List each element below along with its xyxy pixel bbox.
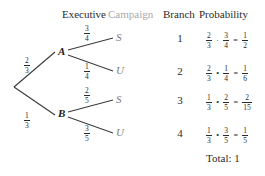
branch-number-2: 2 [172,65,188,77]
edge-b-to-s [68,100,113,112]
multiply-symbol: • [214,132,222,140]
edge-label-a-to-u: 1 4 [84,63,90,80]
branch-number-1: 1 [172,32,188,44]
probability-row-3: 1 3 • 2 5 = 2 15 [206,94,252,111]
prob-3-result: 2 15 [242,94,252,111]
edge-label-root-to-a: 2 3 [24,57,30,74]
tree-edges-graphic [0,0,265,176]
probability-row-2: 2 3 • 1 4 = 1 6 [206,65,248,82]
header-campaign: Campaign [108,8,153,20]
header-executive: Executive [62,8,106,20]
probability-tree-diagram: Executive Campaign Branch Probability 2 … [0,0,265,176]
leaf-label-1-s: S [116,31,122,43]
edge-root-to-b [14,87,55,115]
edge-b-to-u [68,117,113,133]
prob-1-factor-2: 3 4 [223,32,229,49]
edge-root-to-a [14,52,55,87]
header-branch: Branch [163,8,195,20]
equals-symbol: = [231,99,241,107]
total-label: Total: 1 [206,152,240,164]
prob-3-factor-1: 1 3 [206,94,212,111]
equals-symbol: = [231,132,241,140]
prob-3-factor-2: 2 5 [223,94,229,111]
prob-2-factor-2: 1 4 [223,65,229,82]
edge-a-to-s [68,38,113,50]
multiply-symbol: • [214,99,222,107]
node-label-b: B [58,107,65,119]
prob-4-result: 1 5 [242,127,248,144]
multiply-symbol: · [214,37,222,45]
fraction-three-fifths: 3 5 [84,125,90,142]
prob-1-factor-1: 2 3 [206,32,212,49]
prob-4-factor-1: 1 3 [206,127,212,144]
fraction-one-third: 1 3 [24,112,30,129]
fraction-two-thirds: 2 3 [24,57,30,74]
prob-1-result: 1 2 [242,32,248,49]
header-probability: Probability [199,8,248,20]
edge-label-b-to-s: 2 5 [84,87,90,104]
node-label-a: A [58,45,65,57]
fraction-two-fifths: 2 5 [84,87,90,104]
fraction-one-fourth: 1 4 [84,63,90,80]
leaf-label-2-u: U [116,64,124,76]
probability-row-1: 2 3 · 3 4 = 1 2 [206,32,248,49]
branch-number-3: 3 [172,94,188,106]
branch-number-4: 4 [172,127,188,139]
prob-2-result: 1 6 [242,65,248,82]
probability-row-4: 1 3 • 3 5 = 1 5 [206,127,248,144]
equals-symbol: = [231,37,241,45]
edge-label-a-to-s: 3 4 [84,25,90,42]
equals-symbol: = [231,70,241,78]
prob-4-factor-2: 3 5 [223,127,229,144]
edge-label-root-to-b: 1 3 [24,112,30,129]
multiply-symbol: • [214,70,222,78]
edge-a-to-u [68,55,113,71]
fraction-three-fourths: 3 4 [84,25,90,42]
edge-label-b-to-u: 3 5 [84,125,90,142]
prob-2-factor-1: 2 3 [206,65,212,82]
leaf-label-4-u: U [116,126,124,138]
leaf-label-3-s: S [116,93,122,105]
